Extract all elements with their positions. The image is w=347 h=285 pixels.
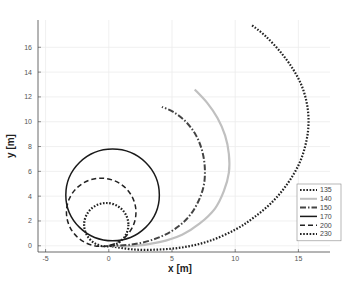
x-axis-label: x [m] [168, 263, 192, 274]
x-tick-label: 0 [107, 255, 111, 262]
y-tick-label: 0 [28, 242, 32, 249]
legend: 135140150170200230 [297, 184, 341, 241]
legend-label-200: 200 [320, 222, 332, 229]
y-tick-label: 16 [24, 44, 32, 51]
y-tick-label: 14 [24, 69, 32, 76]
y-tick-label: 12 [24, 93, 32, 100]
legend-box [297, 184, 341, 241]
legend-label-230: 230 [320, 230, 332, 237]
legend-label-140: 140 [320, 195, 332, 202]
y-axis-label: y [m] [5, 134, 16, 158]
y-tick-label: 2 [28, 217, 32, 224]
series-150 [109, 107, 205, 246]
axes: -50510150246810121416 [24, 20, 330, 262]
y-tick-label: 6 [28, 168, 32, 175]
x-tick-label: -5 [42, 255, 48, 262]
y-tick-label: 10 [24, 118, 32, 125]
x-tick-label: 10 [231, 255, 239, 262]
series-170 [66, 149, 160, 241]
y-tick-label: 8 [28, 143, 32, 150]
x-tick-label: 5 [170, 255, 174, 262]
x-tick-label: 15 [294, 255, 302, 262]
trajectory-chart: -50510150246810121416 135140150170200230… [0, 0, 347, 285]
series-200 [66, 178, 136, 246]
y-tick-label: 4 [28, 193, 32, 200]
legend-label-170: 170 [320, 213, 332, 220]
data-series [66, 25, 309, 250]
series-140 [109, 89, 230, 246]
grid-lines [38, 20, 330, 252]
legend-label-150: 150 [320, 204, 332, 211]
legend-label-135: 135 [320, 186, 332, 193]
